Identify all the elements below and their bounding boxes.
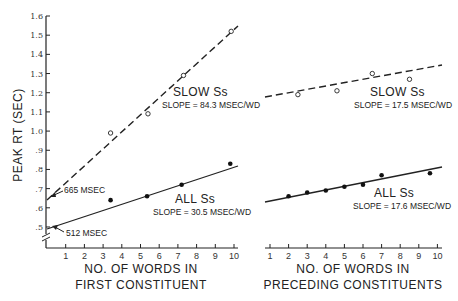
left-all-label: ALL Ss xyxy=(175,192,215,206)
left-panel: 1.61.51.41.31.21.11.0.9.8.7.6.5 12345678… xyxy=(30,12,260,292)
y-tick-label: 1.5 xyxy=(30,31,43,40)
filled-circle-point xyxy=(286,194,291,199)
x-tick-label: 6 xyxy=(360,251,365,261)
y-tick-label: 1.2 xyxy=(30,89,43,98)
filled-circle-point xyxy=(145,194,150,199)
x-tick-label: 1 xyxy=(63,251,68,261)
x-tick-label: 2 xyxy=(82,251,87,261)
filled-circle-point xyxy=(108,198,113,203)
x-tick-label: 7 xyxy=(379,251,384,261)
open-circle-point xyxy=(108,131,112,135)
filled-circle-point xyxy=(305,190,310,195)
y-tick-label: .9 xyxy=(35,146,43,155)
chart-figure: PEAK RT (SEC) 1.61.51.41.31.21.11.0.9.8.… xyxy=(0,0,458,301)
open-circle-point xyxy=(229,29,233,33)
x-tick-label: 8 xyxy=(398,251,403,261)
open-circle-point xyxy=(146,112,150,116)
right-slow-slope: SLOPE = 17.5 MSEC/WD xyxy=(354,100,452,110)
right-all-slope: SLOPE = 17.6 MSEC/WD xyxy=(353,201,451,211)
y-tick-label: 1.1 xyxy=(30,108,43,117)
left-slow-label: SLOW Ss xyxy=(173,85,228,99)
open-circle-point xyxy=(370,71,374,75)
x-tick-label: 9 xyxy=(213,251,218,261)
left-all-slope: SLOPE = 30.5 MSEC/WD xyxy=(153,207,251,217)
x-tick-label: 8 xyxy=(194,251,199,261)
y-axis-title: PEAK RT (SEC) xyxy=(11,88,25,181)
svg-text:665 MSEC: 665 MSEC xyxy=(64,185,105,195)
x-tick-label: 2 xyxy=(286,251,291,261)
right-x-axis-title-line2: PRECEDING CONSTITUENTS xyxy=(263,278,442,292)
open-circle-point xyxy=(181,73,185,77)
x-tick-label: 4 xyxy=(323,251,328,261)
x-tick-label: 3 xyxy=(305,251,310,261)
filled-circle-point xyxy=(228,161,233,166)
x-tick-label: 5 xyxy=(138,251,143,261)
left-slow-fit-line xyxy=(47,26,238,200)
right-all-label: ALL Ss xyxy=(374,186,414,200)
left-y-ticks: 1.61.51.41.31.21.11.0.9.8.7.6.5 xyxy=(30,12,50,232)
x-tick-label: 10 xyxy=(432,251,442,261)
right-panel: 12345678910 SLOW Ss SLOPE = 17.5 MSEC/WD… xyxy=(263,65,452,292)
open-circle-point xyxy=(407,77,411,81)
x-tick-label: 1 xyxy=(267,251,272,261)
right-x-axis-title-line1: NO. OF WORDS IN xyxy=(296,262,410,276)
left-x-ticks: 12345678910 xyxy=(63,244,239,261)
open-circle-point xyxy=(296,92,300,96)
y-tick-label: 1.4 xyxy=(30,50,43,59)
x-tick-label: 5 xyxy=(342,251,347,261)
right-x-ticks: 12345678910 xyxy=(267,244,442,261)
y-tick-label: 1.3 xyxy=(30,70,43,79)
right-all-fit-line xyxy=(265,167,442,202)
filled-circle-point xyxy=(361,182,366,187)
axis-break-icon xyxy=(42,233,50,241)
x-tick-label: 7 xyxy=(175,251,180,261)
x-tick-label: 3 xyxy=(101,251,106,261)
y-tick-label: 1.0 xyxy=(30,127,43,136)
y-tick-label: .5 xyxy=(35,223,43,232)
svg-text:512 MSEC: 512 MSEC xyxy=(66,228,107,238)
filled-circle-point xyxy=(324,188,329,193)
left-x-axis-title-line1: NO. OF WORDS IN xyxy=(84,262,198,276)
y-tick-label: 1.6 xyxy=(30,12,43,21)
open-circle-point xyxy=(335,89,339,93)
right-slow-label: SLOW Ss xyxy=(370,85,425,99)
filled-circle-point xyxy=(342,184,347,189)
x-tick-label: 6 xyxy=(157,251,162,261)
filled-circle-point xyxy=(179,182,184,187)
filled-circle-point xyxy=(428,171,433,176)
left-slow-slope: SLOPE = 84.3 MSEC/WD xyxy=(162,100,260,110)
annotation-665: 665 MSEC xyxy=(50,185,105,197)
filled-circle-point xyxy=(379,173,384,178)
x-tick-label: 10 xyxy=(229,251,239,261)
y-tick-label: .7 xyxy=(35,185,43,194)
x-tick-label: 9 xyxy=(416,251,421,261)
left-data-points xyxy=(108,29,233,202)
left-x-axis-title-line2: FIRST CONSTITUENT xyxy=(75,278,207,292)
annotation-512: 512 MSEC xyxy=(52,225,107,238)
y-tick-label: .8 xyxy=(35,165,43,174)
x-tick-label: 4 xyxy=(119,251,124,261)
y-tick-label: .6 xyxy=(35,204,43,213)
